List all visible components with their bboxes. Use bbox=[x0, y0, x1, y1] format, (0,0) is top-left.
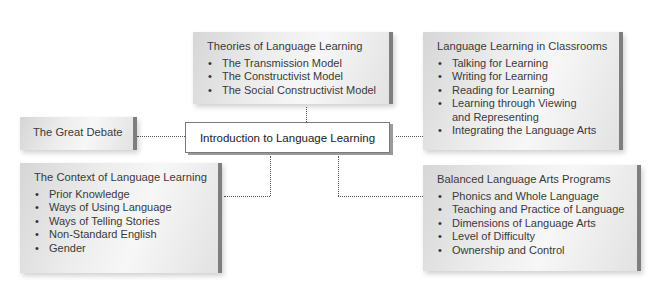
node-title: The Great Debate bbox=[33, 126, 123, 140]
node-list: Phonics and Whole Language Teaching and … bbox=[437, 190, 627, 258]
node-great-debate: The Great Debate bbox=[20, 117, 137, 150]
list-item: Prior Knowledge bbox=[34, 188, 208, 202]
list-item: Ownership and Control bbox=[437, 244, 627, 258]
list-item: Talking for Learning bbox=[437, 57, 609, 71]
central-topic-label: Introduction to Language Learning bbox=[200, 132, 375, 144]
connector-center-context-h bbox=[224, 196, 270, 197]
list-item: Phonics and Whole Language bbox=[437, 190, 627, 204]
node-title: Language Learning in Classrooms bbox=[437, 40, 609, 54]
connector-debate-center bbox=[137, 136, 185, 137]
list-item: Ways of Telling Stories bbox=[34, 215, 208, 229]
connector-center-context-v bbox=[270, 156, 271, 196]
node-list: Prior Knowledge Ways of Using Language W… bbox=[34, 188, 208, 256]
list-item: Dimensions of Language Arts bbox=[437, 217, 627, 231]
node-title: Theories of Language Learning bbox=[207, 40, 379, 54]
node-theories: Theories of Language Learning The Transm… bbox=[193, 32, 393, 104]
list-item: The Constructivist Model bbox=[207, 70, 379, 84]
node-balanced: Balanced Language Arts Programs Phonics … bbox=[423, 165, 641, 271]
node-context: The Context of Language Learning Prior K… bbox=[20, 163, 222, 273]
connector-center-classrooms bbox=[396, 136, 423, 137]
list-item: Teaching and Practice of Language bbox=[437, 203, 627, 217]
list-item: Integrating the Language Arts bbox=[437, 124, 609, 138]
connector-center-balanced-h bbox=[338, 196, 423, 197]
list-item-continuation: and Representing bbox=[437, 111, 609, 125]
node-list: Talking for Learning Writing for Learnin… bbox=[437, 57, 609, 138]
list-item: The Social Constructivist Model bbox=[207, 84, 379, 98]
list-item: Learning through Viewing bbox=[437, 97, 609, 111]
central-topic: Introduction to Language Learning bbox=[185, 122, 390, 153]
list-item: Level of Difficulty bbox=[437, 230, 627, 244]
list-item: The Transmission Model bbox=[207, 57, 379, 71]
node-list: The Transmission Model The Constructivis… bbox=[207, 57, 379, 98]
list-item: Reading for Learning bbox=[437, 84, 609, 98]
node-classrooms: Language Learning in Classrooms Talking … bbox=[423, 32, 623, 150]
list-item: Gender bbox=[34, 242, 208, 256]
node-title: Balanced Language Arts Programs bbox=[437, 173, 627, 187]
connector-theories-center bbox=[306, 107, 307, 122]
node-title: The Context of Language Learning bbox=[34, 171, 208, 185]
list-item: Non-Standard English bbox=[34, 228, 208, 242]
list-item: Ways of Using Language bbox=[34, 201, 208, 215]
connector-center-balanced-v bbox=[338, 156, 339, 196]
list-item: Writing for Learning bbox=[437, 70, 609, 84]
